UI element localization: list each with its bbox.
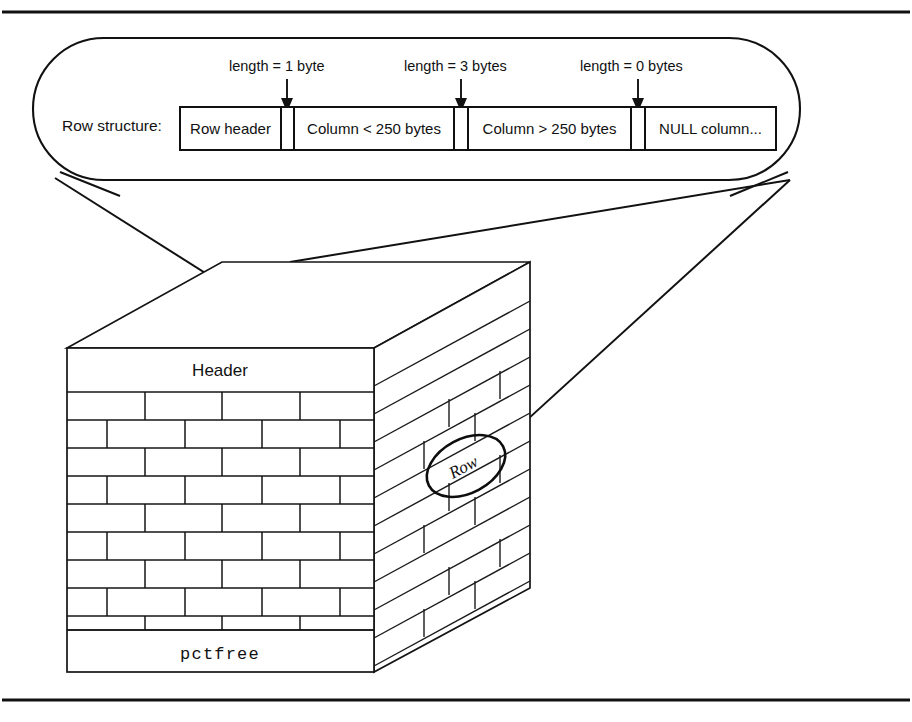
annotation-length-0-bytes: length = 0 bytes — [580, 58, 683, 74]
row-structure-bar: Row header Column < 250 bytes Column > 2… — [180, 107, 776, 150]
row-structure-label: Row structure: — [62, 117, 162, 134]
segment-row-header-label: Row header — [190, 120, 271, 137]
segment-length-byte-1 — [281, 107, 294, 150]
block-front-face — [67, 348, 374, 672]
annotation-length-3-bytes: length = 3 bytes — [404, 58, 507, 74]
segment-column-under-250-label: Column < 250 bytes — [307, 120, 441, 137]
segment-null-column-label: NULL column... — [659, 120, 762, 137]
figure-root: Row structure: length = 1 byte length = … — [0, 0, 912, 722]
segment-length-byte-3 — [631, 107, 645, 150]
header-label: Header — [192, 361, 248, 380]
diagram-canvas: Row structure: length = 1 byte length = … — [0, 0, 912, 722]
segment-length-byte-2 — [454, 107, 468, 150]
annotation-length-1-byte: length = 1 byte — [229, 58, 325, 74]
segment-column-over-250-label: Column > 250 bytes — [483, 120, 617, 137]
pctfree-label: pctfree — [180, 645, 260, 664]
